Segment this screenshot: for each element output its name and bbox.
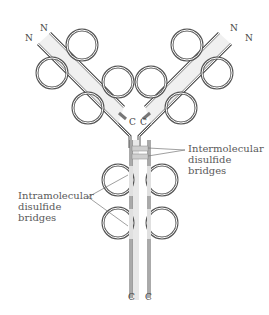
right-arm [136, 30, 232, 148]
c-terminus-label: C [129, 117, 136, 128]
n-terminus-label: N [40, 23, 48, 34]
n-terminus-label: N [245, 33, 253, 44]
n-terminus-label: N [230, 23, 238, 34]
c-terminus-label: C [145, 292, 152, 303]
c-terminus-label: C [140, 117, 147, 128]
intramolecular-label: Intramolecular disulfide bridges [18, 190, 94, 223]
stem [103, 140, 177, 300]
c-terminus-label: C [128, 292, 135, 303]
antibody-diagram: N N N N C C C C Intermolecular disulfide… [0, 0, 269, 315]
left-arm [37, 30, 133, 148]
n-terminus-label: N [25, 33, 33, 44]
intermolecular-label: Intermolecular disulfide bridges [188, 143, 264, 176]
